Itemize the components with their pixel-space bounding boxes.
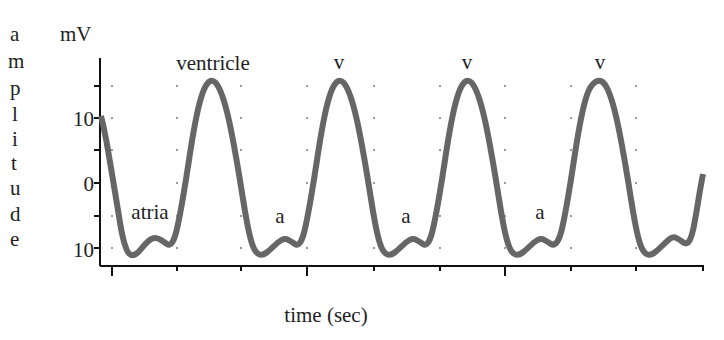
grid-dot (306, 247, 308, 249)
grid-dot (439, 117, 441, 119)
grid-dot (570, 215, 572, 217)
grid-dot (439, 215, 441, 217)
ecg-chart: mV 10 0 10 a m p l i t u d e ventricle v… (0, 0, 724, 340)
grid-dot (635, 247, 637, 249)
grid-dot (504, 149, 506, 151)
grid-dot (373, 85, 375, 87)
grid-dot (504, 117, 506, 119)
grid-dot (240, 85, 242, 87)
ylabel-letter: l (12, 102, 18, 126)
y-tick-label-10: 10 (73, 107, 94, 131)
grid-dot (504, 247, 506, 249)
grid-dot (306, 182, 308, 184)
ylabel-letter: t (11, 151, 17, 175)
grid-dot (306, 85, 308, 87)
annotation-ventricle: ventricle (176, 51, 249, 75)
grid-dot (570, 247, 572, 249)
grid-dot (635, 182, 637, 184)
grid-dot (111, 215, 113, 217)
grid-dot (439, 149, 441, 151)
grid-dot (504, 182, 506, 184)
grid-dot (240, 149, 242, 151)
grid-dot (240, 247, 242, 249)
grid-dot (240, 215, 242, 217)
grid-dot (439, 247, 441, 249)
grid-dot (570, 117, 572, 119)
grid-dot (176, 182, 178, 184)
grid-dot (373, 247, 375, 249)
ecg-trace-line (101, 81, 703, 255)
grid-dot (111, 247, 113, 249)
ylabel-letter: e (10, 227, 19, 251)
annotation-v: v (334, 50, 345, 74)
grid-dot (111, 85, 113, 87)
annotation-v: v (462, 50, 473, 74)
grid-dot (635, 85, 637, 87)
y-tick-label-0: 0 (84, 172, 95, 196)
ylabel-letter: i (12, 127, 18, 151)
grid-dot (306, 149, 308, 151)
grid-dot (176, 117, 178, 119)
grid-dot (570, 85, 572, 87)
grid-dot (111, 117, 113, 119)
grid-dot (240, 117, 242, 119)
annotation-a: a (401, 204, 411, 228)
x-axis-label: time (sec) (284, 303, 367, 327)
grid-dot (306, 117, 308, 119)
grid-dot (176, 247, 178, 249)
annotation-v: v (595, 50, 606, 74)
grid-dot (176, 149, 178, 151)
grid-dot (439, 85, 441, 87)
y-axis-label-amplitude: a m p l i t u d e (8, 22, 24, 251)
grid-dot (635, 149, 637, 151)
ylabel-letter: p (10, 76, 21, 100)
grid-dot (504, 85, 506, 87)
ylabel-letter: u (10, 176, 21, 200)
grid-dot (111, 149, 113, 151)
y-tick-label-neg10: 10 (73, 238, 94, 262)
y-unit-label: mV (60, 22, 92, 46)
ylabel-letter: a (10, 22, 20, 46)
grid-dot (373, 182, 375, 184)
grid-dot (570, 149, 572, 151)
grid-dot (373, 149, 375, 151)
grid-dot (635, 117, 637, 119)
grid-dot (176, 85, 178, 87)
ylabel-letter: m (8, 49, 24, 73)
ylabel-letter: d (10, 202, 21, 226)
annotation-a: a (275, 204, 285, 228)
annotation-atria: atria (131, 200, 169, 224)
grid-dot (373, 117, 375, 119)
annotation-a: a (535, 200, 545, 224)
